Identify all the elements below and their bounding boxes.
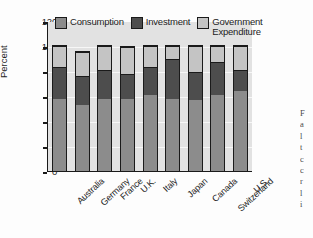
bar-segment-consumption [53, 99, 66, 172]
bar-segment-government [189, 46, 202, 72]
legend-swatch-investment-icon [131, 17, 143, 29]
bar-segment-consumption [76, 105, 89, 171]
bar-australia [52, 45, 67, 172]
bar-segment-consumption [234, 91, 247, 171]
legend-label-consumption: Consumption [70, 17, 124, 27]
bar-segment-investment [211, 62, 224, 95]
bar-segment-investment [53, 67, 66, 98]
edge-text-line: r [300, 176, 313, 187]
edge-text-line: l [300, 131, 313, 142]
edge-text-line: c [300, 154, 313, 165]
adjacent-body-text-sliver: Faltccrli [300, 108, 313, 211]
bar-segment-consumption [144, 95, 157, 171]
bar-segment-investment [166, 59, 179, 99]
bar-segment-investment [144, 67, 157, 95]
bar-segment-consumption [98, 99, 111, 172]
edge-text-line: i [300, 199, 313, 210]
bar-segment-consumption [121, 99, 134, 172]
bar-segment-consumption [189, 100, 202, 171]
bar-segment-government [76, 52, 89, 76]
bar-canada [188, 45, 203, 172]
bar-france [97, 45, 112, 172]
bar-segment-government [234, 46, 247, 70]
legend-label-government-expenditure: Government Expenditure [212, 17, 262, 36]
bar-u-s [233, 45, 248, 172]
legend-swatch-government-expenditure-icon [197, 17, 209, 29]
bar-group [49, 22, 252, 172]
bar-segment-government [166, 46, 179, 59]
bar-switzerland [210, 45, 225, 172]
chart-legend: Consumption Investment Government Expend… [55, 17, 263, 36]
edge-text-line: F [300, 108, 313, 119]
x-tick-label: Italy [161, 176, 179, 194]
y-tick-mark [43, 172, 47, 174]
bar-segment-consumption [211, 95, 224, 171]
figure-stacked-bar-chart: Percent 020406080100120 AustraliaGermany… [0, 0, 313, 238]
bar-segment-investment [121, 74, 134, 99]
bar-germany [75, 51, 90, 172]
legend-label-investment: Investment [146, 17, 190, 27]
bar-segment-government [121, 47, 134, 73]
bar-segment-investment [189, 72, 202, 100]
edge-text-line: t [300, 142, 313, 153]
x-tick-label: Canada [210, 176, 239, 204]
bar-japan [165, 45, 180, 172]
bar-segment-consumption [166, 99, 179, 172]
bar-segment-investment [234, 70, 247, 91]
legend-swatch-consumption-icon [55, 17, 67, 29]
bar-segment-government [144, 46, 157, 67]
edge-text-line: a [300, 119, 313, 130]
edge-text-line: c [300, 165, 313, 176]
bar-segment-government [211, 46, 224, 62]
bar-segment-investment [76, 76, 89, 105]
y-axis-title: Percent [0, 45, 9, 78]
legend-item-government-expenditure: Government Expenditure [197, 17, 262, 36]
bar-u-k [120, 46, 135, 172]
bar-segment-government [53, 46, 66, 67]
bar-italy [143, 45, 158, 172]
bar-segment-government [98, 46, 111, 70]
edge-text-line: l [300, 188, 313, 199]
legend-item-consumption: Consumption [55, 17, 124, 29]
x-tick-label: Japan [185, 176, 209, 199]
legend-item-investment: Investment [131, 17, 190, 29]
bar-segment-investment [98, 70, 111, 99]
